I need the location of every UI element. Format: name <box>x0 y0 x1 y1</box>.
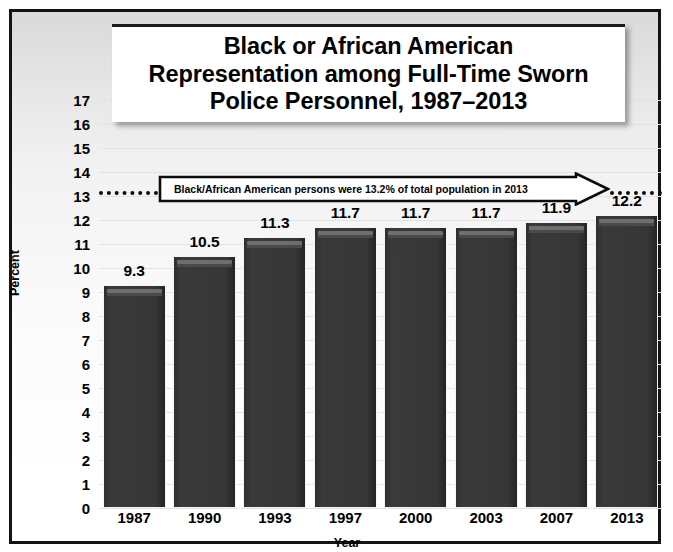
bar-highlight-secondary <box>107 293 162 296</box>
y-axis-tick: 1 <box>64 476 90 493</box>
bar[interactable] <box>595 215 658 508</box>
bar-highlight-secondary <box>247 245 302 248</box>
y-axis-tick: 8 <box>64 308 90 325</box>
bar[interactable] <box>525 222 588 508</box>
bar-highlight-secondary <box>529 230 584 233</box>
x-axis-tick: 1993 <box>240 509 310 526</box>
bar-highlight-secondary <box>459 235 514 238</box>
y-axis-tick: 5 <box>64 380 90 397</box>
bar-value-label: 11.7 <box>305 204 385 222</box>
bar-value-label: 11.7 <box>446 204 526 222</box>
y-axis-tick: 2 <box>64 452 90 469</box>
chart-title-box: Black or African American Representation… <box>112 24 625 122</box>
y-axis-tick: 7 <box>64 332 90 349</box>
y-axis-tick: 10 <box>64 260 90 277</box>
reference-line <box>99 191 158 195</box>
y-axis-title: Percent <box>8 250 22 296</box>
y-axis-tick: 6 <box>64 356 90 373</box>
x-axis-tick: 1987 <box>99 509 169 526</box>
annotation-callout: Black/African American persons were 13.2… <box>158 172 610 206</box>
gridline <box>99 124 662 125</box>
gridline <box>99 148 662 149</box>
bar[interactable] <box>243 237 306 508</box>
y-axis-tick: 0 <box>64 500 90 517</box>
bar-highlight-secondary <box>388 235 443 238</box>
y-axis-tick: 17 <box>64 92 90 109</box>
y-axis-tick: 12 <box>64 212 90 229</box>
x-axis-tick: 2000 <box>381 509 451 526</box>
bar-value-label: 11.7 <box>376 204 456 222</box>
x-axis-title: Year <box>21 536 673 550</box>
chart-frame: Black or African American Representation… <box>9 9 661 544</box>
chart-figure: Black or African American Representation… <box>0 0 673 552</box>
y-axis-tick: 14 <box>64 164 90 181</box>
y-axis-tick-labels: 01234567891011121314151617 <box>60 100 90 508</box>
bar-highlight-secondary <box>599 223 654 226</box>
reference-line <box>610 191 662 195</box>
page-title: Black or African American Representation… <box>149 33 589 116</box>
x-axis-tick-labels: 19871990199319972000200320072013 <box>99 509 662 533</box>
y-axis-tick: 16 <box>64 116 90 133</box>
y-axis-tick: 9 <box>64 284 90 301</box>
bar[interactable] <box>384 227 447 508</box>
bar[interactable] <box>455 227 518 508</box>
bar[interactable] <box>314 227 377 508</box>
x-axis-tick: 1997 <box>310 509 380 526</box>
bar[interactable] <box>173 256 236 508</box>
y-axis-tick: 11 <box>64 236 90 253</box>
bar-highlight-secondary <box>318 235 373 238</box>
bar-highlight-secondary <box>177 264 232 267</box>
bar[interactable] <box>103 285 166 508</box>
bar-value-label: 11.3 <box>235 214 315 232</box>
bar-value-label: 9.3 <box>94 262 174 280</box>
y-axis-tick: 15 <box>64 140 90 157</box>
y-axis-tick: 3 <box>64 428 90 445</box>
annotation-text: Black/African American persons were 13.2… <box>174 172 528 206</box>
x-axis-tick: 2003 <box>451 509 521 526</box>
y-axis-tick: 13 <box>64 188 90 205</box>
x-axis-tick: 2007 <box>521 509 591 526</box>
x-axis-tick: 2013 <box>592 509 662 526</box>
y-axis-tick: 4 <box>64 404 90 421</box>
x-axis-tick: 1990 <box>170 509 240 526</box>
plot-area: 9.310.511.311.711.711.711.912.2 <box>99 100 662 508</box>
bar-value-label: 10.5 <box>165 233 245 251</box>
